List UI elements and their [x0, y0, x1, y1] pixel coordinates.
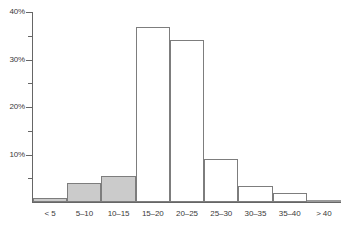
y-axis-tick-label: 30%: [1, 56, 25, 64]
y-axis-tick-label-wrap: 10%: [0, 151, 25, 159]
x-axis-labels: < 55–1010–1515–2020–2525–3030–3535–40> 4…: [33, 209, 341, 223]
histogram-bar: [136, 27, 170, 202]
y-tick-major: [26, 107, 33, 108]
x-axis-tick-label: 10–15: [101, 209, 135, 219]
histogram-bar: [101, 176, 135, 202]
y-axis-tick-label: 40%: [1, 8, 25, 16]
y-tick-major: [26, 60, 33, 61]
histogram-bar: [204, 159, 238, 202]
x-axis-tick-label: 25–30: [204, 209, 238, 219]
x-axis-tick-label: 35–40: [273, 209, 307, 219]
y-tick-major: [26, 12, 33, 13]
histogram-bar: [170, 40, 204, 202]
histogram-bar: [33, 198, 67, 202]
y-axis-tick-label: 10%: [1, 151, 25, 159]
y-axis-tick-label-wrap: 20%: [0, 103, 25, 111]
y-axis-tick-label-wrap: 30%: [0, 56, 25, 64]
x-axis-tick-label: 20–25: [170, 209, 204, 219]
plot-area: [33, 12, 341, 202]
histogram-bar: [307, 200, 341, 202]
x-axis-tick-label: < 5: [33, 209, 67, 219]
x-axis-tick-label: > 40: [307, 209, 341, 219]
y-axis-tick-label-wrap: 40%: [0, 8, 25, 16]
x-axis-line: [32, 202, 341, 203]
x-axis-tick-label: 15–20: [136, 209, 170, 219]
histogram-bar: [238, 186, 272, 202]
histogram-chart: 10%20%30%40% < 55–1010–1515–2020–2525–30…: [0, 0, 347, 231]
x-axis-tick-label: 5–10: [67, 209, 101, 219]
y-tick-major: [26, 155, 33, 156]
histogram-bar: [273, 193, 307, 203]
histogram-bar: [67, 183, 101, 202]
y-axis-tick-label: 20%: [1, 103, 25, 111]
x-axis-tick-label: 30–35: [238, 209, 272, 219]
